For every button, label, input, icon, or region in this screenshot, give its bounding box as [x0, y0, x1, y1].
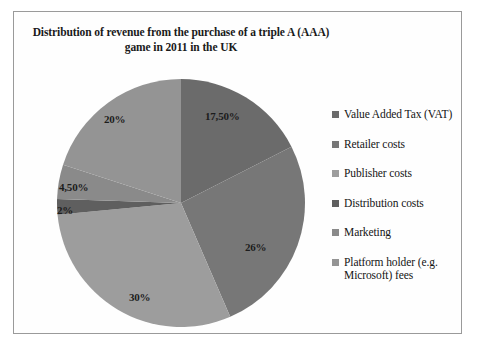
legend-item-label: Distribution costs [344, 197, 424, 210]
legend-item-label: Platform holder (e.g. Microsoft) fees [344, 256, 472, 282]
legend-item-label: Value Added Tax (VAT) [344, 108, 452, 121]
pie-label-marketing: 4,50% [59, 181, 88, 193]
pie-label-distribution-costs: 2% [57, 204, 73, 216]
legend-item[interactable]: Platform holder (e.g. Microsoft) fees [332, 256, 472, 282]
legend-item-label: Marketing [344, 226, 391, 239]
legend-swatch-icon [332, 259, 339, 266]
pie-chart: 17,50% 26% 30% 2% 4,50% 20% [57, 79, 305, 327]
pie-label-retailer-costs: 26% [245, 241, 266, 253]
legend-swatch-icon [332, 111, 339, 118]
legend-swatch-icon [332, 229, 339, 236]
chart-title-line-1: Distribution of revenue from the purchas… [28, 25, 334, 40]
legend-swatch-icon [332, 170, 339, 177]
pie-label-publisher-costs: 30% [129, 291, 150, 303]
legend-item[interactable]: Publisher costs [332, 167, 472, 180]
chart-title-line-2: game in 2011 in the UK [28, 40, 334, 55]
pie-slice-group [57, 79, 305, 327]
chart-frame: Distribution of revenue from the purchas… [13, 11, 462, 334]
pie-label-value-added-tax: 17,50% [205, 110, 240, 122]
chart-title: Distribution of revenue from the purchas… [28, 25, 334, 55]
legend-item[interactable]: Value Added Tax (VAT) [332, 108, 472, 121]
pie-chart-svg [57, 79, 305, 327]
legend-swatch-icon [332, 141, 339, 148]
legend-swatch-icon [332, 200, 339, 207]
legend-item[interactable]: Retailer costs [332, 138, 472, 151]
legend-item-label: Retailer costs [344, 138, 405, 151]
chart-legend: Value Added Tax (VAT)Retailer costsPubli… [332, 108, 472, 298]
legend-item[interactable]: Marketing [332, 226, 472, 239]
legend-item-label: Publisher costs [344, 167, 412, 180]
legend-item[interactable]: Distribution costs [332, 197, 472, 210]
pie-label-platform-holder: 20% [104, 113, 125, 125]
